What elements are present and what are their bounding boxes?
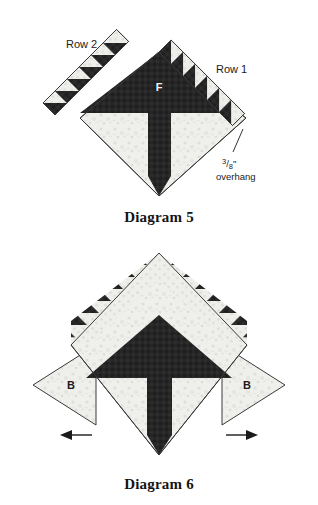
quilt-instruction-page: Row 2 F [0,0,318,505]
overhang-measure: 3/8" [222,157,236,171]
main-diamond-block [15,245,303,455]
figure-diagram-6: B B [0,245,318,505]
diagram-6-caption: Diagram 6 [0,476,318,493]
row2-label: Row 2 [66,38,97,50]
diagram-6-illustration: B B [0,245,318,470]
right-b-label: B [243,379,251,391]
diagram-5-caption: Diagram 5 [0,209,318,226]
overhang-word: overhang [216,171,256,182]
overhang-leader-line [233,129,243,152]
right-arrow-icon [226,430,258,440]
piece-f-label: F [156,81,163,93]
left-b-label: B [67,379,75,391]
row1-label: Row 1 [216,63,247,75]
figure-diagram-5: Row 2 F [0,0,318,245]
diagram-5-illustration: Row 2 F [0,0,318,205]
left-arrow-icon [60,430,92,440]
overhang-annotation: 3/8" overhang [216,157,256,182]
